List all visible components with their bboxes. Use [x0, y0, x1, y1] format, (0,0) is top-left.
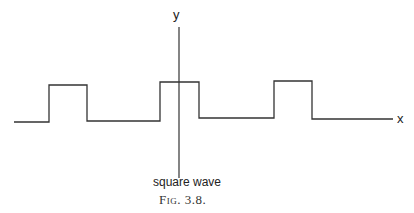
y-axis-label: y: [173, 8, 180, 21]
square-wave-annotation: square wave: [153, 176, 221, 188]
figure: y x square wave Fig. 3.8.: [0, 0, 414, 213]
x-axis-label: x: [397, 112, 404, 125]
square-wave-line: [14, 81, 393, 122]
figure-caption: Fig. 3.8.: [159, 193, 206, 206]
